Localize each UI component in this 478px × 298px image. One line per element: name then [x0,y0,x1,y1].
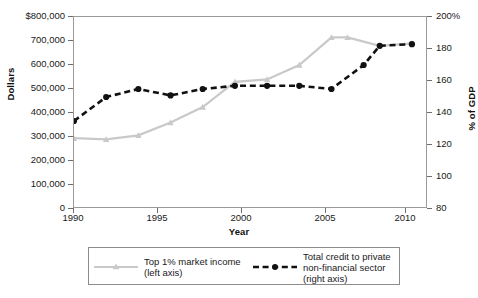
legend-line-2: non-financial sector [303,262,385,273]
y-left-tick-500000: 500,000 [0,83,65,93]
legend-line-1: Total credit to private [303,251,391,262]
series-canvas [74,17,428,209]
chart-legend: Top 1% market income (left axis) Total c… [88,247,400,285]
x-tick-2005: 2005 [303,212,347,223]
y-right-tick-100: 100 [436,171,478,181]
y-left-tick-800000: $800,000 [0,11,65,21]
legend-swatch-gray-line-icon [93,260,139,274]
y-right-tick-200: 200% [436,11,478,21]
y-right-tick-180: 180 [436,43,478,53]
y-left-tick-300000: 300,000 [0,131,65,141]
y-axis-right-title: % of GDP [466,117,477,131]
chart-figure: Dollars % of GDP Year $800,000 700,000 6… [0,0,478,298]
series-total-credit-private-nonfinancial [74,41,415,124]
y-left-tick-400000: 400,000 [0,107,65,117]
legend-line-2: (left axis) [144,267,183,278]
series-top-1pct-market-income [74,34,415,142]
y-left-tick-700000: 700,000 [0,35,65,45]
x-tick-1995: 1995 [135,212,179,223]
y-right-tick-80: 80 [436,203,478,213]
legend-label-top-1pct: Top 1% market income (left axis) [144,256,241,278]
x-tick-2010: 2010 [383,212,427,223]
y-right-tick-140: 140 [436,107,478,117]
legend-item-top-1pct: Top 1% market income (left axis) [93,248,253,286]
x-axis-title: Year [0,226,478,237]
legend-label-total-credit: Total credit to private non-financial se… [303,251,391,284]
x-tick-2000: 2000 [219,212,263,223]
legend-line-1: Top 1% market income [144,256,241,267]
legend-swatch-black-dashed-line-icon [252,260,298,274]
y-right-tick-160: 160 [436,75,478,85]
legend-line-3: (right axis) [303,273,347,284]
y-right-tick-120: 120 [436,139,478,149]
plot-area [73,16,427,208]
y-left-tick-100000: 100,000 [0,179,65,189]
legend-item-total-credit: Total credit to private non-financial se… [252,248,400,286]
y-left-tick-200000: 200,000 [0,155,65,165]
y-left-tick-600000: 600,000 [0,59,65,69]
x-tick-1990: 1990 [51,212,95,223]
